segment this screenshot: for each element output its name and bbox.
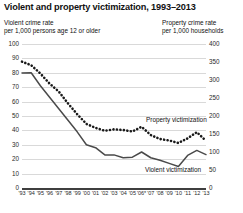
x-axis-ticks: '93'94'95'96'97'98'99'00'01'02'03'04'05'… [22, 190, 206, 202]
x-tick-label: '97 [55, 190, 62, 196]
x-tick-label: '02 [101, 190, 108, 196]
x-axis-line [22, 188, 206, 190]
left-tick-label: 30 [1, 141, 19, 148]
right-tick-label: 200 [209, 112, 231, 119]
right-axis-caption-line2: per 1,000 households [162, 27, 223, 35]
left-axis-caption-line1: Violent crime rate [4, 19, 100, 27]
right-axis-caption: Property crime rate per 1,000 households [162, 19, 223, 35]
x-tick-label: '93 [18, 190, 25, 196]
x-tick-label: '09 [166, 190, 173, 196]
x-tick-label: '00 [83, 190, 90, 196]
x-tick-label: '12 [193, 190, 200, 196]
left-tick-label: 70 [1, 83, 19, 90]
left-tick-label: 0 [1, 184, 19, 191]
x-tick-label: '03 [110, 190, 117, 196]
left-tick-label: 100 [1, 40, 19, 47]
right-tick-label: 100 [209, 148, 231, 155]
series-line-property [22, 62, 206, 143]
left-tick-label: 50 [1, 112, 19, 119]
x-tick-label: '06* [137, 190, 146, 196]
left-axis-caption-line2: per 1,000 persons age 12 or older [4, 27, 100, 35]
x-tick-label: '96 [46, 190, 53, 196]
right-tick-label: 400 [209, 40, 231, 47]
x-tick-label: '98 [64, 190, 71, 196]
x-tick-label: '05 [129, 190, 136, 196]
left-tick-label: 40 [1, 126, 19, 133]
left-axis-caption: Violent crime rate per 1,000 persons age… [4, 19, 100, 35]
series-label-violent: Violent victimization [145, 166, 201, 173]
x-tick-label: '04 [120, 190, 127, 196]
left-tick-label: 80 [1, 69, 19, 76]
right-tick-label: 300 [209, 76, 231, 83]
left-tick-label: 20 [1, 155, 19, 162]
right-axis-caption-line1: Property crime rate [162, 19, 223, 27]
x-tick-label: '99 [74, 190, 81, 196]
x-tick-label: '07 [147, 190, 154, 196]
right-tick-label: 350 [209, 58, 231, 65]
left-tick-label: 10 [1, 170, 19, 177]
x-tick-label: '01 [92, 190, 99, 196]
right-tick-label: 50 [209, 166, 231, 173]
x-tick-label: '95 [37, 190, 44, 196]
right-tick-label: 0 [209, 184, 231, 191]
x-tick-label: '11 [184, 190, 191, 196]
left-tick-label: 90 [1, 54, 19, 61]
right-tick-label: 250 [209, 94, 231, 101]
series-label-property: Property victimization [146, 116, 207, 123]
x-tick-label: '13 [202, 190, 209, 196]
right-tick-label: 150 [209, 130, 231, 137]
x-tick-label: '10 [175, 190, 182, 196]
chart-title: Violent and property victimization, 1993… [4, 2, 196, 12]
x-tick-label: '08 [156, 190, 163, 196]
chart-figure: Violent and property victimization, 1993… [0, 0, 243, 213]
left-tick-label: 60 [1, 98, 19, 105]
x-tick-label: '94 [28, 190, 35, 196]
